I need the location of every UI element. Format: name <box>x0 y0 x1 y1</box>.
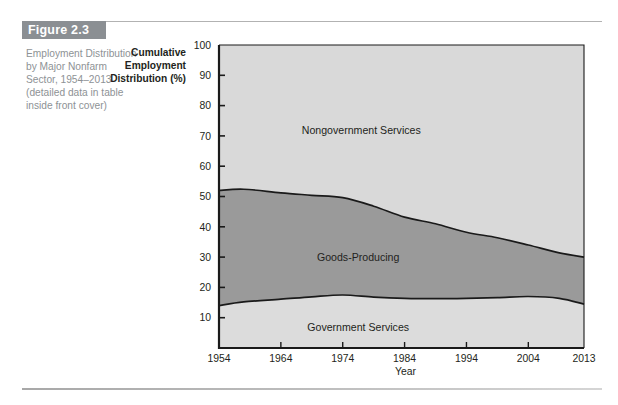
x-tick-label: 1974 <box>331 353 354 364</box>
y-tick-label: 30 <box>199 252 211 263</box>
series-label: Nongovernment Services <box>302 124 421 136</box>
employment-distribution-area-chart: 102030405060708090100 195419641974198419… <box>0 0 618 405</box>
y-tick-label: 20 <box>199 282 211 293</box>
y-tick-label: 100 <box>194 40 212 51</box>
y-axis-tick-labels: 102030405060708090100 <box>194 40 212 324</box>
x-tick-label: 1994 <box>455 353 478 364</box>
series-label: Goods-Producing <box>317 251 400 263</box>
x-tick-label: 2013 <box>572 353 595 364</box>
x-tick-label: 1954 <box>207 353 230 364</box>
x-axis-label: Year <box>395 366 417 377</box>
y-tick-label: 60 <box>199 161 211 172</box>
y-tick-label: 50 <box>199 191 211 202</box>
x-axis-tick-labels: 1954196419741984199420042013 <box>207 353 595 364</box>
y-tick-label: 70 <box>199 131 211 142</box>
chart-svg: 102030405060708090100 195419641974198419… <box>0 0 618 405</box>
y-tick-label: 10 <box>199 312 211 323</box>
plot-areas <box>219 45 584 348</box>
x-tick-label: 2004 <box>517 353 540 364</box>
y-tick-label: 80 <box>199 100 211 111</box>
y-tick-label: 90 <box>199 70 211 81</box>
x-tick-label: 1964 <box>269 353 292 364</box>
y-tick-label: 40 <box>199 222 211 233</box>
series-label: Government Services <box>307 321 409 333</box>
x-tick-label: 1984 <box>393 353 416 364</box>
